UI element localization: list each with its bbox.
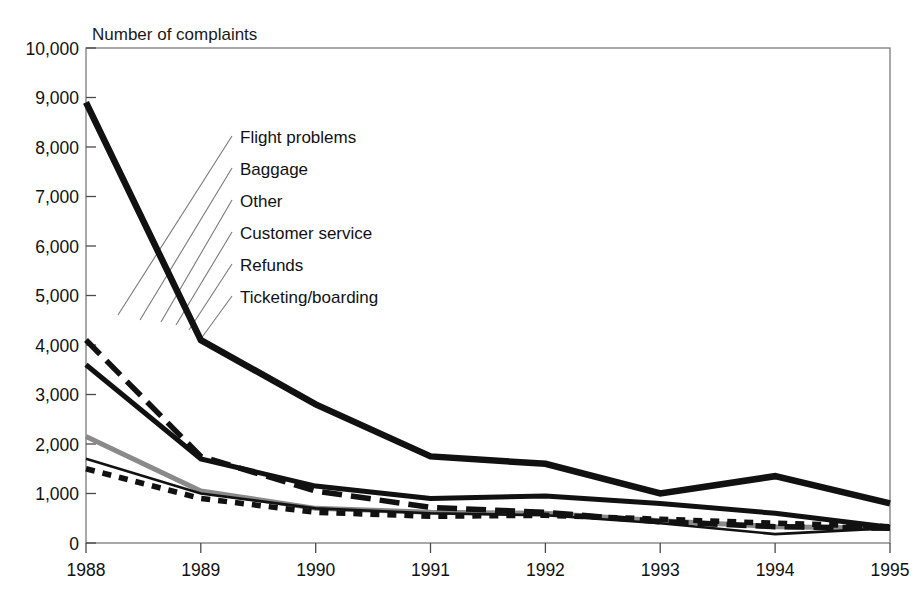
leader-line-refunds — [189, 264, 232, 330]
axis-title: Number of complaints — [92, 25, 257, 44]
ytick-label-9000: 9,000 — [35, 88, 79, 108]
leader-line-other — [161, 200, 232, 322]
series-path-other — [86, 365, 890, 527]
series-label-customer-service: Customer service — [240, 224, 372, 243]
series-label-ticketing-boarding: Ticketing/boarding — [240, 288, 378, 307]
series-label-baggage: Baggage — [240, 160, 308, 179]
xtick-label-1992: 1992 — [526, 560, 565, 580]
leader-lines — [118, 136, 232, 340]
ytick-label-5000: 5,000 — [35, 286, 79, 306]
xtick-label-1988: 1988 — [67, 560, 106, 580]
series-label-flight-problems: Flight problems — [240, 128, 356, 147]
ytick-label-8000: 8,000 — [35, 138, 79, 158]
plot-frame — [86, 48, 890, 543]
xtick-label-1993: 1993 — [641, 560, 680, 580]
ytick-label-6000: 6,000 — [35, 237, 79, 257]
complaints-line-chart: 0 1,000 2,000 3,000 4,000 5,000 6,000 7,… — [0, 0, 918, 600]
data-series-layer — [86, 102, 890, 534]
xtick-label-1990: 1990 — [296, 560, 335, 580]
ytick-label-1000: 1,000 — [35, 484, 79, 504]
leader-line-ticketing-boarding — [200, 296, 232, 340]
chart-svg: 0 1,000 2,000 3,000 4,000 5,000 6,000 7,… — [0, 0, 918, 600]
xtick-label-1995: 1995 — [871, 560, 910, 580]
series-label-refunds: Refunds — [240, 256, 303, 275]
ytick-label-4000: 4,000 — [35, 336, 79, 356]
ytick-label-3000: 3,000 — [35, 385, 79, 405]
x-axis-ticks — [86, 543, 890, 553]
xtick-label-1991: 1991 — [411, 560, 450, 580]
ytick-label-7000: 7,000 — [35, 187, 79, 207]
x-axis-tick-labels: 1988 1989 1990 1991 1992 1993 1994 1995 — [67, 560, 910, 580]
y-axis-tick-labels: 0 1,000 2,000 3,000 4,000 5,000 6,000 7,… — [25, 39, 79, 554]
series-label-other: Other — [240, 192, 283, 211]
ytick-label-10000: 10,000 — [25, 39, 79, 59]
series-labels: Flight problems Baggage Other Customer s… — [240, 128, 378, 307]
ytick-label-0: 0 — [69, 534, 79, 554]
ytick-label-2000: 2,000 — [35, 435, 79, 455]
xtick-label-1994: 1994 — [756, 560, 795, 580]
xtick-label-1989: 1989 — [181, 560, 220, 580]
